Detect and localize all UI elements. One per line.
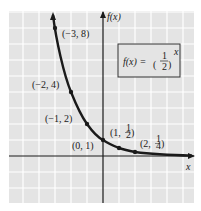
label-point-neg1-2: (−1, 2) [45,113,72,125]
svg-text:(1,: (1, [110,127,121,139]
formula-exponent: x [173,46,179,57]
x-axis-label: x [185,161,191,172]
svg-text:): ) [131,127,134,139]
label-point-neg2-4: (−2, 4) [32,79,59,91]
label-point-neg3-8: (−3, 8) [62,28,89,40]
svg-text:(2,: (2, [140,138,151,150]
y-axis-label: f(x) [107,11,122,23]
point-2-quarter [133,150,137,154]
point-1-half [117,146,121,150]
formula-paren-right: ) [168,59,171,71]
formula-lhs: f(x) = [123,56,146,68]
point-0-1 [101,138,105,142]
svg-text:): ) [161,138,164,150]
point-neg1-2 [85,122,89,126]
formula-box: f(x) = ( 1 2 ) x [118,44,180,77]
point-neg2-4 [69,90,73,94]
label-point-0-1: (0, 1) [72,140,94,152]
grid-background [9,11,194,203]
point-neg3-8 [53,26,57,30]
chart-canvas: f(x) x f(x) = ( 1 2 ) x (−3, 8) (−2, 4) … [0,0,201,211]
formula-denominator: 2 [162,61,167,72]
formula-numerator: 1 [162,50,167,61]
